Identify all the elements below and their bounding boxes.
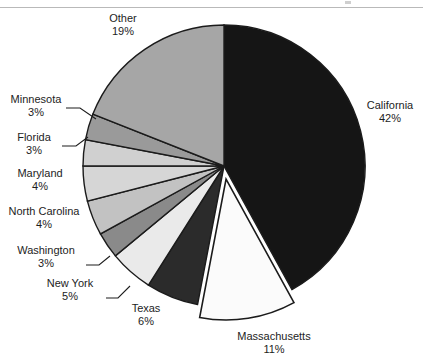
pie-label-maryland-value: 4% bbox=[6, 180, 74, 193]
leader-line-new-york bbox=[106, 286, 130, 298]
pie-label-florida-name: Florida bbox=[17, 131, 51, 143]
pie-label-california-value: 42% bbox=[360, 112, 420, 125]
pie-label-massachusetts: Massachusetts 11% bbox=[228, 330, 320, 356]
pie-label-massachusetts-name: Massachusetts bbox=[237, 330, 310, 342]
pie-label-north-carolina-value: 4% bbox=[1, 218, 87, 231]
pie-label-other-name: Other bbox=[109, 12, 137, 24]
pie-label-florida: Florida 3% bbox=[6, 131, 62, 157]
pie-label-new-york-value: 5% bbox=[37, 290, 103, 303]
pie-label-maryland: Maryland 4% bbox=[6, 167, 74, 193]
pie-label-north-carolina-name: North Carolina bbox=[9, 205, 80, 217]
pie-label-new-york: New York 5% bbox=[37, 277, 103, 303]
pie-label-texas: Texas 6% bbox=[123, 302, 169, 328]
pie-label-texas-name: Texas bbox=[132, 302, 161, 314]
pie-label-minnesota-value: 3% bbox=[3, 106, 69, 119]
pie-label-new-york-name: New York bbox=[47, 277, 93, 289]
leader-line-washington bbox=[86, 256, 110, 265]
pie-label-maryland-name: Maryland bbox=[17, 167, 62, 179]
pie-label-other: Other 19% bbox=[90, 12, 156, 38]
pie-label-texas-value: 6% bbox=[123, 315, 169, 328]
pie-label-washington-value: 3% bbox=[9, 257, 83, 270]
pie-label-massachusetts-value: 11% bbox=[228, 343, 320, 356]
pie-label-california-name: California bbox=[367, 99, 413, 111]
pie-chart-figure: Other 19% Minnesota 3% Florida 3% Maryla… bbox=[0, 0, 423, 364]
pie-label-north-carolina: North Carolina 4% bbox=[1, 205, 87, 231]
pie-label-minnesota: Minnesota 3% bbox=[3, 93, 69, 119]
pie-label-minnesota-name: Minnesota bbox=[11, 93, 62, 105]
pie-label-florida-value: 3% bbox=[6, 144, 62, 157]
pie-label-washington: Washington 3% bbox=[9, 244, 83, 270]
pie-label-washington-name: Washington bbox=[17, 244, 75, 256]
pie-label-california: California 42% bbox=[360, 99, 420, 125]
pie-label-other-value: 19% bbox=[90, 25, 156, 38]
